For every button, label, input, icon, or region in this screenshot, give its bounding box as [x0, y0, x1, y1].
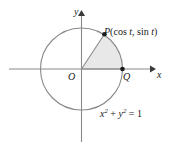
x-axis-arrow: [150, 66, 156, 73]
figure-canvas: [0, 0, 173, 154]
y-axis-label: y: [74, 7, 78, 17]
x-axis-label: x: [157, 70, 161, 80]
point-p-close-paren: ): [154, 26, 157, 37]
point-q-label: Q: [123, 72, 130, 82]
point-p-cos-fn: cos: [113, 26, 126, 37]
origin-label: O: [68, 72, 75, 82]
point-p-sin-fn: sin: [137, 26, 149, 37]
shaded-sector: [82, 34, 123, 69]
unit-circle-figure: y x O Q P(cos t, sin t) x2 + y2 = 1: [0, 0, 173, 154]
circle-equation: x2 + y2 = 1: [100, 108, 142, 119]
y-axis-arrow: [78, 10, 85, 16]
equation-value: 1: [137, 108, 142, 119]
point-p-label: P(cos t, sin t): [104, 27, 157, 37]
